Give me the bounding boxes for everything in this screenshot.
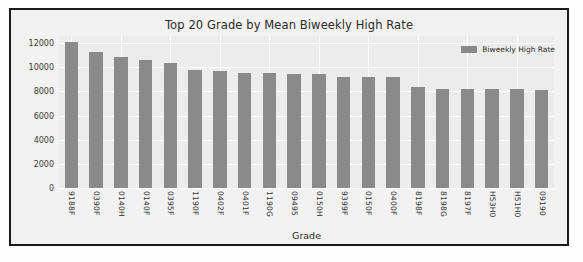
screenshot-page: Top 20 Grade by Mean Biweekly High Rate … — [0, 0, 583, 262]
x-tick-label: 0390F — [92, 191, 101, 215]
bar — [114, 57, 128, 188]
figure-frame: Top 20 Grade by Mean Biweekly High Rate … — [9, 8, 569, 246]
chart-figure: Top 20 Grade by Mean Biweekly High Rate … — [11, 10, 567, 244]
y-tick-label: 2000 — [34, 159, 54, 168]
x-tick-label: 0401F — [240, 191, 249, 215]
y-tick-label: 0 — [49, 184, 54, 193]
bar — [362, 77, 376, 188]
bar — [485, 89, 499, 188]
bar — [188, 70, 202, 188]
x-tick-label: 0140F — [141, 191, 150, 215]
bar — [238, 73, 252, 188]
bar — [139, 60, 153, 188]
x-tick-label: 1190F — [191, 191, 200, 215]
legend-swatch-biweekly-high-rate — [461, 46, 477, 53]
bar — [89, 52, 103, 188]
x-tick-label: 0400F — [389, 191, 398, 215]
chart-legend: Biweekly High Rate — [457, 43, 559, 56]
bar — [65, 42, 79, 188]
bar — [461, 89, 475, 188]
x-tick-label: 8197F — [463, 191, 472, 215]
y-tick-label: 12000 — [29, 39, 54, 48]
y-tick-label: 8000 — [34, 87, 54, 96]
x-tick-label: H53H0 — [488, 191, 497, 218]
x-tick-label: 0140H — [116, 191, 125, 217]
x-tick-label: 9399F — [339, 191, 348, 215]
x-tick-label: 0395F — [166, 191, 175, 215]
x-axis-label: Grade — [59, 230, 554, 241]
x-tick-label: 0150H — [314, 191, 323, 217]
bar — [386, 77, 400, 188]
x-tick-label: 09190 — [537, 191, 546, 216]
bar — [287, 74, 301, 188]
y-tick-label: 6000 — [34, 111, 54, 120]
x-tick-label: 0402F — [215, 191, 224, 215]
bar — [535, 90, 549, 188]
gridline-y-0 — [59, 188, 554, 189]
bar-series — [59, 36, 554, 188]
x-tick-label: 8198F — [413, 191, 422, 215]
x-tick-label: 09495 — [290, 191, 299, 216]
x-tick-label: 1190G — [265, 191, 274, 217]
bar — [510, 89, 524, 188]
x-tick-label: 0150F — [364, 191, 373, 215]
x-tick-label: 8198G — [438, 191, 447, 217]
plot-area: 020004000600080001000012000 9188F0390F01… — [59, 36, 554, 188]
bar — [312, 74, 326, 188]
y-tick-label: 10000 — [29, 63, 54, 72]
bar — [436, 89, 450, 188]
chart-title: Top 20 Grade by Mean Biweekly High Rate — [11, 18, 567, 32]
bar — [213, 71, 227, 188]
bar — [337, 77, 351, 188]
x-tick-label: H51H0 — [512, 191, 521, 218]
y-tick-label: 4000 — [34, 135, 54, 144]
legend-label-biweekly-high-rate: Biweekly High Rate — [482, 45, 555, 54]
bar — [263, 73, 277, 188]
x-tick-label: 9188F — [67, 191, 76, 215]
bar — [411, 87, 425, 188]
bar — [164, 63, 178, 188]
